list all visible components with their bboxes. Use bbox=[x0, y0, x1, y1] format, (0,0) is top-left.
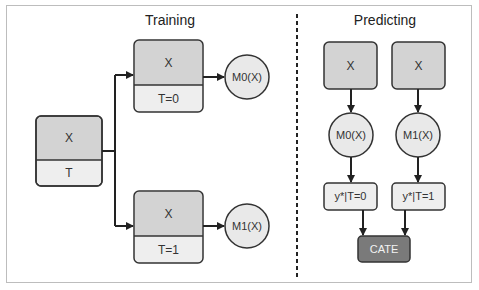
treated-box-1-bottom-label: T=1 bbox=[134, 236, 203, 263]
treated-box-0-top-label: X bbox=[134, 40, 203, 85]
predict-output-1-label: y*|T=1 bbox=[392, 183, 445, 210]
source-box-top-label: X bbox=[36, 116, 102, 160]
predict-output-0-label: y*|T=0 bbox=[324, 183, 377, 210]
predicting-title: Predicting bbox=[350, 12, 420, 28]
treated-box-0-bottom-label: T=0 bbox=[134, 85, 203, 112]
treated-box-1-top-label: X bbox=[134, 191, 203, 236]
predict-model-1-label: M1(X) bbox=[396, 125, 440, 145]
predict-model-0-label: M0(X) bbox=[329, 125, 373, 145]
source-box-bottom-label: T bbox=[36, 160, 102, 186]
model-1-label: M1(X) bbox=[225, 216, 269, 236]
cate-label: CATE bbox=[358, 236, 410, 262]
training-title: Training bbox=[140, 12, 200, 28]
predict-input-0-label: X bbox=[324, 42, 377, 89]
predict-input-1-label: X bbox=[392, 42, 445, 89]
model-0-label: M0(X) bbox=[225, 67, 269, 87]
